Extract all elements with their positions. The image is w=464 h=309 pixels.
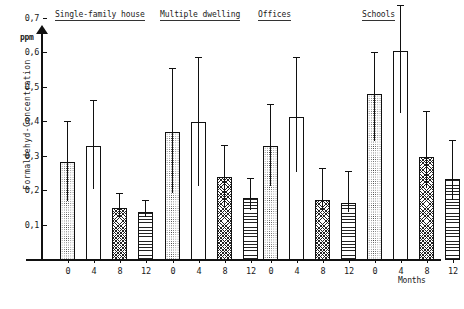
error-bar-cap-top <box>397 5 404 6</box>
x-axis-title: Months <box>398 276 426 285</box>
bar-slot <box>440 32 464 260</box>
y-axis-tick <box>43 225 47 226</box>
bar-slot <box>310 32 336 260</box>
chart-group-title: Single-family house <box>55 10 145 21</box>
chart-group-plot <box>362 32 464 260</box>
error-bar-cap-top <box>221 145 228 146</box>
error-bar <box>119 194 120 216</box>
y-axis-tick <box>43 52 47 53</box>
error-bar <box>322 169 323 210</box>
y-axis-tick-label: 0,3 <box>17 151 39 161</box>
bar-slot <box>160 32 186 260</box>
x-axis-tick <box>297 259 298 263</box>
y-axis-tick-label: 0,6 <box>17 47 39 57</box>
x-axis-tick <box>94 259 95 263</box>
y-axis-tick <box>43 18 47 19</box>
bar-slot <box>133 32 159 260</box>
x-axis-tick-label: 8 <box>215 266 235 276</box>
error-bar-cap-top <box>319 168 326 169</box>
error-bar <box>270 105 271 186</box>
error-bar <box>250 179 251 210</box>
x-axis-tick <box>225 259 226 263</box>
chart-group-title: Multiple dwelling <box>160 10 240 21</box>
y-axis-tick <box>43 87 47 88</box>
x-axis-tick-label: 4 <box>391 266 411 276</box>
bar-slot <box>107 32 133 260</box>
y-axis-tick-label: 0,5 <box>17 82 39 92</box>
x-axis-tick <box>349 259 350 263</box>
error-bar <box>198 58 199 186</box>
x-axis-tick <box>323 259 324 263</box>
x-axis-tick <box>427 259 428 263</box>
x-axis-tick-label: 12 <box>443 266 463 276</box>
chart-group: Single-family house <box>55 32 159 260</box>
x-axis-tick <box>453 259 454 263</box>
error-bar-cap-top <box>169 68 176 69</box>
error-bar-cap-top <box>423 111 430 112</box>
bar-slot <box>212 32 238 260</box>
x-axis-tick-label: 0 <box>163 266 183 276</box>
bar-slot <box>284 32 310 260</box>
chart-group-plot <box>258 32 362 260</box>
bar-slot <box>186 32 212 260</box>
error-bar-cap-top <box>116 193 123 194</box>
error-bar-cap-top <box>247 178 254 179</box>
x-axis-tick <box>271 259 272 263</box>
bar-slot <box>362 32 388 260</box>
y-axis-line <box>41 32 43 260</box>
y-axis-tick-label: 0,4 <box>17 116 39 126</box>
x-axis-tick-label: 8 <box>110 266 130 276</box>
error-bar-cap-top <box>142 200 149 201</box>
error-bar-cap-top <box>371 52 378 53</box>
chart-group-title: Schools <box>362 10 395 21</box>
bar-slot <box>388 32 414 260</box>
bar-slot <box>81 32 107 260</box>
x-axis-tick <box>199 259 200 263</box>
x-axis-tick-label: 4 <box>84 266 104 276</box>
x-axis-tick <box>251 259 252 263</box>
error-bar <box>426 112 427 188</box>
x-axis-tick-label: 0 <box>261 266 281 276</box>
x-axis-tick-label: 12 <box>136 266 156 276</box>
error-bar <box>452 141 453 200</box>
error-bar-cap-top <box>90 100 97 101</box>
error-bar <box>348 172 349 212</box>
chart-group: Schools <box>362 32 464 260</box>
x-axis-tick-label: 4 <box>287 266 307 276</box>
chart-group: Offices <box>258 32 362 260</box>
bar-slot <box>336 32 362 260</box>
bar[interactable] <box>138 212 153 260</box>
chart-group-plot <box>160 32 264 260</box>
error-bar <box>93 101 94 189</box>
bar-slot <box>55 32 81 260</box>
error-bar <box>374 53 375 141</box>
chart-group: Multiple dwelling <box>160 32 264 260</box>
x-axis-tick-label: 4 <box>189 266 209 276</box>
error-bar <box>296 58 297 172</box>
x-axis-tick <box>146 259 147 263</box>
bar-slot <box>258 32 284 260</box>
error-bar <box>145 201 146 217</box>
y-axis-tick-label: 0,2 <box>17 185 39 195</box>
chart-group-title: Offices <box>258 10 291 21</box>
error-bar <box>224 146 225 206</box>
error-bar-cap-top <box>195 57 202 58</box>
x-axis-tick <box>68 259 69 263</box>
error-bar-cap-top <box>345 171 352 172</box>
y-axis-tick <box>43 190 47 191</box>
x-axis-tick <box>120 259 121 263</box>
error-bar-cap-top <box>64 121 71 122</box>
x-axis-tick-label: 8 <box>313 266 333 276</box>
error-bar <box>67 122 68 201</box>
y-axis-tick-label: 0,1 <box>17 220 39 230</box>
bar-slot <box>414 32 440 260</box>
x-axis-tick-label: 0 <box>58 266 78 276</box>
x-axis-tick <box>401 259 402 263</box>
x-axis-tick <box>173 259 174 263</box>
y-axis-tick <box>43 156 47 157</box>
x-axis-tick-label: 8 <box>417 266 437 276</box>
y-axis-unit-label: ppm <box>20 33 34 42</box>
error-bar-cap-top <box>267 104 274 105</box>
error-bar-cap-top <box>293 57 300 58</box>
